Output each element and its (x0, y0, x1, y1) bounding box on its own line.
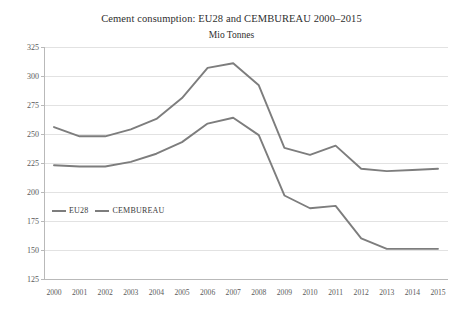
y-tick-mark (41, 279, 45, 280)
y-tick-label: 225 (5, 159, 39, 168)
chart-legend: EU28 CEMBUREAU (52, 206, 165, 215)
y-tick-label: 325 (5, 43, 39, 52)
plot-area (44, 47, 448, 279)
y-tick-label: 200 (5, 188, 39, 197)
y-tick-label: 250 (5, 130, 39, 139)
gridline (44, 134, 448, 135)
gridline (44, 76, 448, 77)
y-tick-mark (41, 250, 45, 251)
chart-subtitle: Mio Tonnes (0, 30, 463, 40)
legend-label-eu28: EU28 (69, 206, 88, 215)
y-tick-label: 175 (5, 217, 39, 226)
y-tick-label: 300 (5, 72, 39, 81)
gridline (44, 105, 448, 106)
y-tick-label: 275 (5, 101, 39, 110)
legend-line-icon-eu28 (52, 210, 66, 212)
y-tick-label: 125 (5, 275, 39, 284)
legend-line-icon-cembureau (95, 210, 109, 212)
gridline (44, 192, 448, 193)
y-axis-tick-labels: 125150175200225250275300325 (0, 0, 39, 318)
x-tick-label: 2015 (423, 288, 453, 297)
y-tick-mark (41, 105, 45, 106)
gridline (44, 250, 448, 251)
y-tick-mark (41, 76, 45, 77)
x-axis-line (44, 279, 448, 280)
legend-label-cembureau: CEMBUREAU (112, 206, 164, 215)
chart-title: Cement consumption: EU28 and CEMBUREAU 2… (0, 13, 463, 24)
y-tick-mark (41, 221, 45, 222)
y-tick-mark (41, 192, 45, 193)
gridline (44, 221, 448, 222)
y-tick-label: 150 (5, 246, 39, 255)
y-tick-mark (41, 134, 45, 135)
legend-item-cembureau[interactable]: CEMBUREAU (95, 206, 164, 215)
legend-item-eu28[interactable]: EU28 (52, 206, 88, 215)
y-tick-mark (41, 47, 45, 48)
gridline (44, 163, 448, 164)
chart-container: Cement consumption: EU28 and CEMBUREAU 2… (0, 0, 463, 318)
y-tick-mark (41, 163, 45, 164)
gridline (44, 47, 448, 48)
